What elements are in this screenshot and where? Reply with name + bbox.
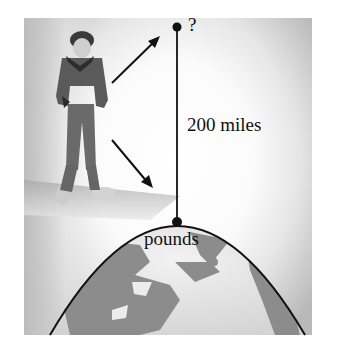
arrow-down-icon bbox=[112, 140, 153, 188]
distance-label: 200 miles bbox=[187, 114, 261, 136]
top-point-label: ? bbox=[188, 14, 196, 36]
surface-point-dot bbox=[172, 217, 182, 227]
arrow-up-icon bbox=[112, 36, 160, 83]
top-point-dot bbox=[173, 23, 182, 32]
surface-weight-label: pounds bbox=[144, 228, 199, 250]
platform bbox=[24, 180, 180, 220]
person-figure bbox=[56, 31, 116, 205]
diagram-graphics bbox=[0, 0, 344, 348]
